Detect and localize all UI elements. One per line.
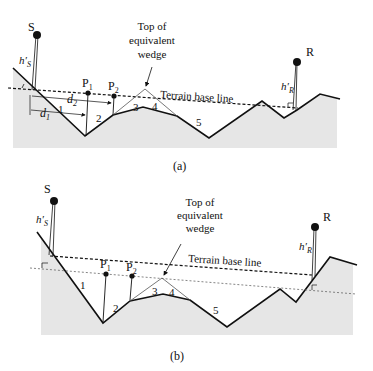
caption-a: (a) [173,159,186,173]
label-seg3-a: 3 [133,101,139,113]
panel-b: S R h′S h′R P1 P2 Top of equivalent wedg… [30,182,357,363]
terrain-diagram-figure: S R h′S h′R P1 P2 d1 d2 Top of equivalen… [0,0,373,371]
label-seg4-b: 4 [169,286,175,298]
p2-drop-a [113,96,114,115]
p1-drop-b [103,274,106,322]
label-hs-b: h′S [36,213,48,228]
label-wedge-line2-b: equivalent [177,209,223,221]
label-base-line-a: Terrain base line [160,88,234,104]
panel-a: S R h′S h′R P1 P2 d1 d2 Top of equivalen… [8,20,340,173]
label-wedge-line1-a: Top of [138,20,167,32]
terrain-base-line-b [50,256,312,275]
label-wedge-line3-a: wedge [138,48,167,60]
caption-b: (b) [170,349,184,363]
label-seg1-a: 1 [58,103,64,115]
label-s-b: S [44,182,51,196]
label-base-line-b: Terrain base line [188,252,262,268]
label-seg2-b: 2 [113,302,119,314]
label-s-a: S [28,20,35,34]
wedge-pointer-arrow-b [164,244,181,275]
receiver-r-icon-a [293,58,301,66]
label-p1-b: P1 [100,257,111,273]
label-seg1-b: 1 [80,279,86,291]
label-wedge-line2-a: equivalent [129,34,175,46]
wedge-pointer-arrow-a [146,67,152,86]
receiver-r-icon-b [311,223,319,231]
r-mast-b [312,228,314,280]
label-r-a: R [306,45,314,59]
label-hr-b: h′R [299,240,312,255]
label-p1-a: P1 [82,76,93,92]
transmitter-s-icon-b [50,197,58,205]
label-hr-a: h′R [281,80,294,95]
label-seg4-a: 4 [152,100,158,112]
label-wedge-line3-b: wedge [186,222,215,234]
label-seg3-b: 3 [152,285,158,297]
label-d2-a: d2 [67,92,77,108]
label-wedge-line1-b: Top of [186,196,215,208]
p2-drop-b [130,276,132,300]
p1-drop-a [86,93,88,136]
label-p2-a: P2 [108,79,119,95]
label-hs-a: h′S [19,54,31,69]
label-r-b: R [323,210,331,224]
label-seg5-a: 5 [196,116,202,128]
s-mast-b [49,201,53,255]
label-seg5-b: 5 [213,304,219,316]
label-seg2-a: 2 [96,112,102,124]
